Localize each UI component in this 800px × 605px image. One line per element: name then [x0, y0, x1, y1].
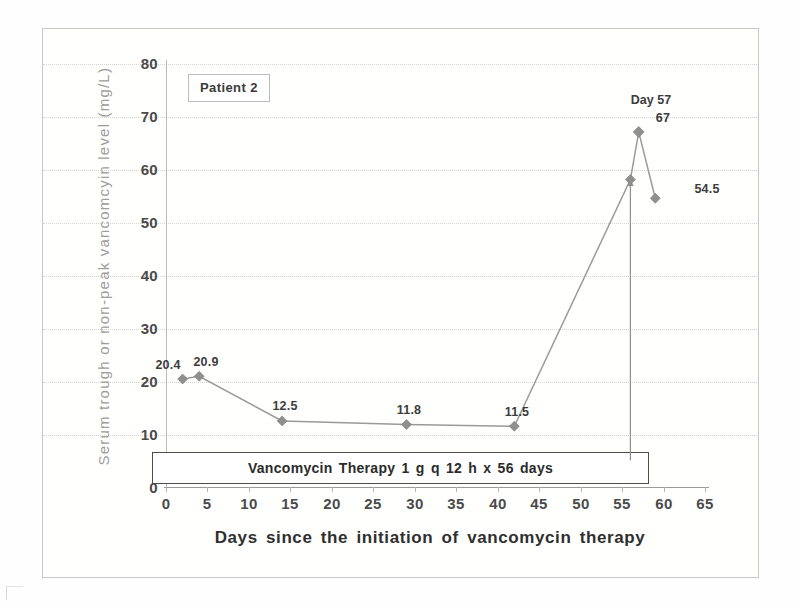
- y-tick-30: 30: [141, 320, 158, 337]
- x-tick-15: 15: [281, 495, 298, 512]
- x-tick-5: 5: [203, 495, 212, 512]
- x-tick-mark-5: [207, 487, 208, 492]
- y-axis-line: [166, 60, 167, 489]
- x-tick-mark-10: [249, 487, 250, 492]
- point-label-20-9: 20.9: [193, 355, 218, 369]
- y-tick-40: 40: [141, 267, 158, 284]
- x-tick-65: 65: [696, 495, 713, 512]
- x-tick-55: 55: [613, 495, 630, 512]
- x-axis-title: Days since the initiation of vancomycin …: [150, 528, 710, 548]
- x-tick-35: 35: [447, 495, 464, 512]
- x-tick-mark-65: [705, 487, 706, 492]
- point-label-20-4: 20.4: [155, 358, 180, 372]
- x-tick-mark-60: [664, 487, 665, 492]
- y-tick-60: 60: [141, 161, 158, 178]
- x-tick-mark-25: [373, 487, 374, 492]
- y-tick-50: 50: [141, 214, 158, 231]
- x-tick-0: 0: [162, 495, 171, 512]
- therapy-duration-label: Vancomycin Therapy 1 g q 12 h x 56 days: [248, 460, 553, 476]
- y-tick-10: 10: [141, 426, 158, 443]
- point-label-11-8: 11.8: [397, 403, 421, 417]
- y-axis-title: Serum trough or non-peak vancomcyin leve…: [95, 136, 112, 466]
- point-label-54-5: 54.5: [694, 182, 719, 196]
- x-tick-mark-55: [622, 487, 623, 492]
- x-tick-20: 20: [323, 495, 340, 512]
- y-tick-80: 80: [141, 55, 158, 72]
- x-tick-mark-45: [539, 487, 540, 492]
- scan-artifact: [6, 586, 23, 600]
- x-tick-10: 10: [240, 495, 257, 512]
- x-tick-60: 60: [655, 495, 672, 512]
- x-axis-line: [164, 487, 709, 488]
- y-tick-labels: 80 70 60 50 40 30 20 10 0: [108, 0, 158, 605]
- therapy-duration-box: Vancomycin Therapy 1 g q 12 h x 56 days: [152, 452, 649, 484]
- y-tick-20: 20: [141, 373, 158, 390]
- x-tick-25: 25: [364, 495, 381, 512]
- x-tick-mark-35: [456, 487, 457, 492]
- y-tick-70: 70: [141, 108, 158, 125]
- point-label-12-5: 12.5: [272, 399, 297, 413]
- x-tick-50: 50: [572, 495, 589, 512]
- x-tick-mark-50: [581, 487, 582, 492]
- x-tick-40: 40: [489, 495, 506, 512]
- x-tick-mark-0: [166, 487, 167, 492]
- patient-label-text: Patient 2: [200, 80, 258, 95]
- patient-label-box: Patient 2: [188, 74, 270, 102]
- point-label-11-5: 11.5: [505, 405, 529, 419]
- x-tick-45: 45: [530, 495, 547, 512]
- annotation-day-57: Day 57: [631, 93, 671, 107]
- x-tick-mark-30: [415, 487, 416, 492]
- x-tick-mark-40: [498, 487, 499, 492]
- point-label-67: 67: [656, 111, 670, 125]
- x-tick-30: 30: [406, 495, 423, 512]
- scanned-page: 80 70 60 50 40 30 20 10 0 0 5 10 15 20 2…: [0, 0, 800, 605]
- x-tick-mark-20: [332, 487, 333, 492]
- x-tick-mark-15: [290, 487, 291, 492]
